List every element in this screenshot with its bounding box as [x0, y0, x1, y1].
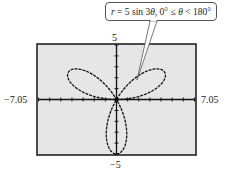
- graph-window: [0, 0, 230, 172]
- ymax-label: 5: [112, 33, 117, 43]
- ymin-label: −5: [110, 160, 121, 170]
- xmin-label: −7.05: [4, 95, 27, 105]
- xmax-label: 7.05: [201, 95, 219, 105]
